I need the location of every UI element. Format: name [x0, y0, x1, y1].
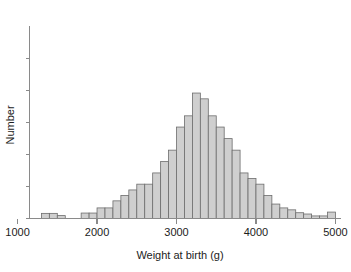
histogram-bar [280, 208, 288, 219]
histogram-bar [153, 173, 161, 219]
histogram-bar [232, 150, 240, 218]
histogram-bar [200, 99, 208, 219]
histogram-bar [113, 201, 121, 219]
x-axis-tick-label: 3000 [164, 226, 188, 238]
histogram-bar [121, 195, 129, 218]
histogram-bar [216, 127, 224, 218]
histogram-bar [327, 212, 335, 218]
histogram-bar [272, 204, 280, 218]
histogram-bar [137, 184, 145, 218]
histogram-bar [169, 150, 177, 218]
birth-weight-histogram: 10002000300040005000 Weight at birth (g)… [0, 0, 351, 272]
histogram-bar [240, 173, 248, 219]
x-axis-tick-label: 2000 [85, 226, 109, 238]
histogram-bar [97, 208, 105, 219]
x-axis-tick-label: 5000 [323, 226, 347, 238]
histogram-bar [49, 213, 57, 218]
histogram-bar [41, 213, 49, 218]
histogram-bar [177, 127, 185, 218]
histogram-bar [264, 195, 272, 218]
histogram-bar [105, 208, 113, 219]
histogram-bar [288, 210, 296, 219]
histogram-bar [256, 184, 264, 218]
histogram-bar [224, 139, 232, 219]
histogram-bar [161, 161, 169, 218]
x-axis-title: Weight at birth (g) [136, 249, 223, 261]
histogram-bar [248, 178, 256, 218]
y-axis-title: Number [4, 105, 16, 144]
histogram-bar [192, 93, 200, 218]
histogram-bar [184, 116, 192, 219]
x-axis-tick-label: 4000 [244, 226, 268, 238]
x-axis-tick-label: 1000 [5, 226, 29, 238]
histogram-figure: 10002000300040005000 Weight at birth (g)… [0, 0, 351, 272]
histogram-bar [304, 214, 312, 218]
histogram-bar [145, 184, 153, 218]
histogram-bar [89, 213, 97, 218]
histogram-bar [296, 213, 304, 219]
histogram-bar [208, 116, 216, 219]
histogram-bar [81, 213, 89, 218]
histogram-bar [129, 190, 137, 219]
